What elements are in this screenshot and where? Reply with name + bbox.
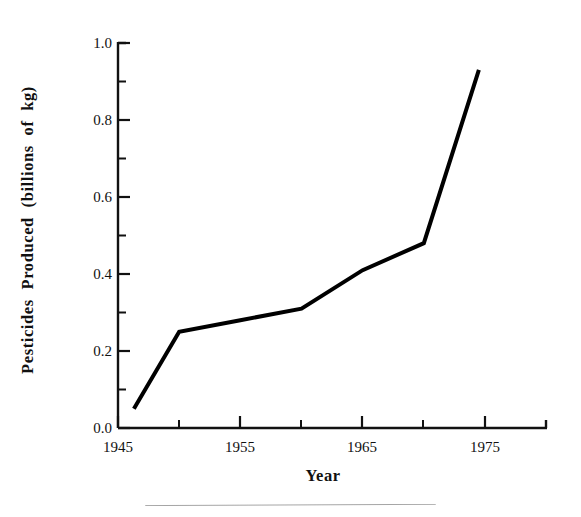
y-tick-label: 0.2 — [93, 343, 112, 359]
y-tick-label: 0.6 — [93, 189, 112, 205]
page-bottom-rule — [0, 504, 581, 506]
data-series-line — [134, 70, 479, 409]
y-tick-label: 0.8 — [93, 112, 112, 128]
y-tick-label: 0.0 — [93, 420, 112, 436]
chart-figure: Pesticides Produced (billions of kg) — [0, 0, 581, 517]
x-axis-title: Year — [118, 466, 528, 486]
x-tick-labels: 1945 1955 1965 1975 — [103, 439, 500, 455]
plot-area: 0.0 0.2 0.4 0.6 0.8 1.0 1945 1955 1965 1… — [0, 0, 581, 500]
x-tick-label: 1975 — [470, 439, 500, 455]
x-tick-label: 1965 — [347, 439, 377, 455]
y-tick-label: 1.0 — [93, 35, 112, 51]
x-tick-label: 1945 — [103, 439, 133, 455]
x-tick-label: 1955 — [225, 439, 255, 455]
y-tick-labels: 0.0 0.2 0.4 0.6 0.8 1.0 — [93, 35, 112, 436]
y-tick-label: 0.4 — [93, 266, 112, 282]
